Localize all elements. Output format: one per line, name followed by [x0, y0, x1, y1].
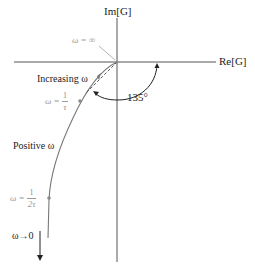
- nyquist-plot: [0, 0, 255, 271]
- fraction-numerator: 1: [62, 91, 69, 100]
- omega-infinity-leader: [99, 46, 115, 60]
- marker-origin: [116, 61, 119, 64]
- omega-one-over-two-tau-label: ω =12τ: [10, 188, 36, 209]
- marker-omega-one-over-tau: [78, 99, 82, 103]
- fraction-one-over-tau: 1τ: [62, 91, 69, 112]
- angle-arc-arrowhead-top-icon: [155, 63, 160, 68]
- omega-one-over-tau-prefix: ω =: [45, 96, 60, 106]
- real-axis-label: Re[G]: [219, 56, 247, 67]
- angle-135-label: 135°: [127, 92, 148, 103]
- omega-one-over-two-tau-prefix: ω =: [10, 193, 25, 203]
- omega-to-zero-arrowhead-icon: [37, 255, 43, 261]
- increasing-omega-label: Increasing ω: [37, 74, 88, 84]
- fraction-one-over-two-tau: 12τ: [27, 188, 37, 209]
- imaginary-axis-label: Im[G]: [104, 6, 132, 17]
- increasing-omega-arrow-icon: [97, 73, 101, 80]
- fraction-numerator: 1: [28, 188, 35, 197]
- omega-one-over-tau-label: ω =1τ: [45, 91, 68, 112]
- fraction-denominator: τ: [62, 103, 67, 112]
- omega-to-zero-label: ω→0: [12, 231, 34, 241]
- positive-omega-label: Positive ω: [13, 141, 54, 151]
- fraction-denominator: 2τ: [27, 200, 37, 209]
- omega-infinity-label: ω = ∞: [72, 36, 95, 45]
- dashed-135-line: [85, 62, 117, 94]
- marker-omega-one-over-two-tau: [47, 196, 51, 200]
- nyquist-curve: [48, 62, 117, 238]
